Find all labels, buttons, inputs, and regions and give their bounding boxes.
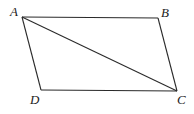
vertex-label-b: B [161, 5, 169, 20]
edge-da [22, 17, 41, 90]
edge-cd [41, 90, 177, 91]
parallelogram-diagram: A B C D [0, 0, 194, 114]
vertex-label-c: C [177, 92, 186, 107]
edge-bc [158, 18, 177, 91]
vertex-label-d: D [29, 92, 40, 107]
vertex-label-a: A [9, 4, 18, 19]
edge-ab [22, 17, 158, 18]
diagonal-ac [22, 17, 177, 91]
